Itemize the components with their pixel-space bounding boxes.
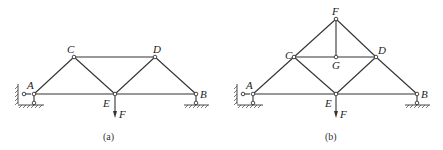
arrow-down-icon [334,111,338,118]
label-a-B: B [200,88,207,100]
member-ED [336,57,376,94]
label-b-G: G [332,59,340,71]
label-b-A: A [245,79,253,91]
load-a-F [113,96,117,118]
member-DB [376,57,417,94]
label-a-A: A [26,79,34,91]
ground-pin-node [32,101,36,105]
truss-a: A C D E B F (a) [15,43,209,143]
member-CF [294,19,336,57]
member-AC [253,57,294,94]
node-a-B [194,92,198,96]
label-a-E: E [102,97,110,109]
node-b-E [334,92,338,96]
member-CE [294,57,336,94]
label-b-F-load: F [339,108,347,120]
node-a-C [72,55,76,59]
truss-diagrams: A C D E B F (a) [0,0,443,150]
member-DB [155,57,196,94]
caption-a: (a) [103,131,114,143]
node-b-A [251,92,255,96]
node-a-E [113,92,117,96]
caption-b: (b) [325,131,337,143]
node-a-A [32,92,36,96]
node-b-F [334,17,338,21]
member-FD [336,19,376,57]
load-b-F [334,96,338,118]
node-b-B [415,92,419,96]
wall-pin-node [22,92,26,96]
label-a-F: F [118,108,126,120]
node-b-C [292,55,296,59]
member-AC [34,57,74,94]
member-ED [115,57,155,94]
member-CE [74,57,115,94]
label-b-C: C [285,49,293,61]
label-b-D: D [377,44,386,56]
truss-b: A C F G D E B F (b) [234,5,430,143]
label-b-E: E [324,97,332,109]
label-b-B: B [421,88,428,100]
roller-node [415,101,419,105]
label-a-D: D [152,43,161,55]
label-b-F-node: F [331,5,339,17]
members-a [34,57,196,94]
label-a-C: C [67,43,75,55]
wall-pin-node [241,92,245,96]
roller-node [194,101,198,105]
ground-pin-node [251,101,255,105]
node-a-D [153,55,157,59]
arrow-down-icon [113,111,117,118]
